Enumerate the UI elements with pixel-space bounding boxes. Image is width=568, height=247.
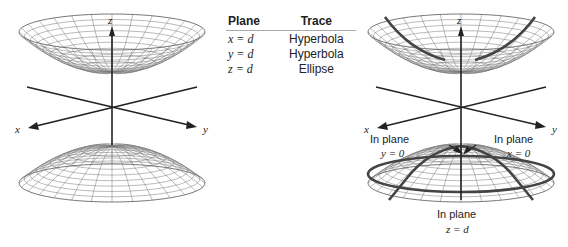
trace-table: Plane Trace x = d Hyperbola y = d Hyperb…: [226, 14, 356, 76]
svg-text:In plane: In plane: [494, 133, 533, 145]
svg-text:x = 0: x = 0: [506, 147, 531, 159]
hyperboloid-figure-left: z x y: [0, 0, 220, 247]
table-row: y = d Hyperbola: [226, 46, 356, 61]
y-axis-label: y: [202, 123, 208, 135]
hyperboloid-figure-right: z x y In plane y = 0 In plane x = 0 In p…: [349, 0, 568, 247]
svg-text:z = d: z = d: [445, 223, 469, 235]
lower-sheet: [19, 144, 205, 202]
plane-cell: y = d: [226, 46, 275, 61]
header-plane: Plane: [226, 14, 275, 31]
y-axis-label: y: [551, 123, 557, 135]
header-trace: Trace: [275, 14, 356, 31]
annotation-plane-y0: In plane y = 0: [370, 133, 409, 159]
z-axis-label: z: [456, 14, 462, 26]
trace-cell: Hyperbola: [275, 31, 356, 47]
trace-cell: Ellipse: [275, 61, 356, 76]
z-axis-label: z: [107, 14, 113, 26]
table-header-row: Plane Trace: [226, 14, 356, 31]
table-row: z = d Ellipse: [226, 61, 356, 76]
x-axis-label: x: [363, 123, 369, 135]
annotation-plane-x0: In plane x = 0: [494, 133, 533, 159]
coordinate-axes: [27, 26, 197, 145]
annotation-plane-zd: In plane z = d: [437, 208, 476, 235]
svg-text:In plane: In plane: [437, 208, 476, 220]
plane-cell: z = d: [226, 61, 275, 76]
svg-text:y = 0: y = 0: [380, 147, 405, 159]
plane-cell: x = d: [226, 31, 275, 47]
table-row: x = d Hyperbola: [226, 31, 356, 47]
trace-cell: Hyperbola: [275, 46, 356, 61]
svg-text:In plane: In plane: [370, 133, 409, 145]
x-axis-label: x: [14, 123, 20, 135]
